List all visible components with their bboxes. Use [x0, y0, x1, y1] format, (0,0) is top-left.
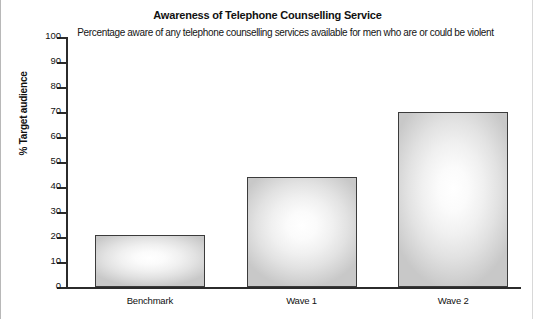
x-axis-category-label: Benchmark [90, 295, 210, 306]
y-axis-tick-label: 30 [50, 205, 61, 216]
y-axis-tick-label: 70 [50, 105, 61, 116]
bar [398, 112, 508, 287]
y-axis-title: % Target audience [18, 54, 29, 174]
chart-title: Awareness of Telephone Counselling Servi… [1, 9, 533, 21]
y-axis-tick-label: 10 [50, 255, 61, 266]
y-axis-tick-label: 80 [50, 80, 61, 91]
y-axis-tick-label: 0 [56, 280, 61, 291]
plot-area: 1009080706050403020100 BenchmarkWave 1Wa… [66, 37, 521, 287]
y-axis-tick-label: 40 [50, 180, 61, 191]
y-axis-tick-label: 20 [50, 230, 61, 241]
y-axis-tick-label: 50 [50, 155, 61, 166]
x-axis-category-label: Wave 2 [393, 295, 513, 306]
y-axis-tick-label: 100 [45, 30, 61, 41]
bar [247, 177, 357, 287]
x-axis-line [66, 287, 521, 289]
x-axis-category-label: Wave 1 [242, 295, 362, 306]
y-axis-tick-label: 90 [50, 55, 61, 66]
bar [95, 235, 205, 288]
chart-container: Awareness of Telephone Counselling Servi… [0, 0, 533, 319]
y-axis-tick-label: 60 [50, 130, 61, 141]
